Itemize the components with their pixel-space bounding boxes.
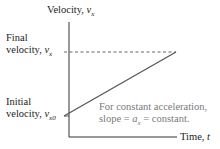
constant-acceleration-note: For constant acceleration, slope = ax = … (99, 101, 207, 129)
final-velocity-label: Final velocity, vx (6, 32, 52, 60)
x-axis-label: Time, t (180, 131, 210, 143)
initial-velocity-label: Initial velocity, vx0 (6, 96, 56, 124)
y-axis-label: Velocity, vx (47, 4, 94, 20)
